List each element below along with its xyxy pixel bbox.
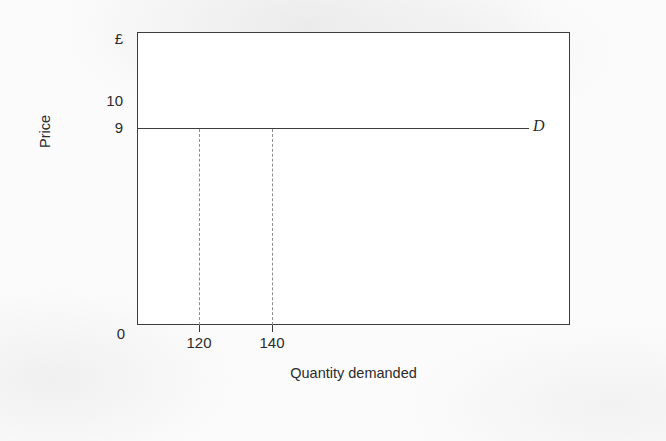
x-axis-tick-label-140: 140 — [242, 334, 302, 351]
axis-origin-label: 0 — [0, 325, 125, 342]
dashed-dropline-q140 — [272, 129, 273, 325]
y-axis-title: Price — [37, 28, 53, 148]
y-axis-tick-label-9: 9 — [0, 119, 123, 136]
plot-area — [137, 32, 570, 325]
demand-curve-line — [138, 128, 529, 129]
dashed-dropline-q120 — [199, 129, 200, 325]
x-axis-tick-label-120: 120 — [169, 334, 229, 351]
y-axis-currency-symbol: £ — [0, 30, 123, 47]
x-axis-title: Quantity demanded — [137, 365, 570, 381]
x-axis-tick-140 — [272, 325, 273, 332]
figure-canvas: £ 10 9 0 Price D 120 140 Quantity demand… — [0, 0, 666, 441]
y-axis-tick-label-10: 10 — [0, 92, 123, 109]
x-axis-tick-120 — [199, 325, 200, 332]
demand-curve-label: D — [533, 117, 545, 135]
